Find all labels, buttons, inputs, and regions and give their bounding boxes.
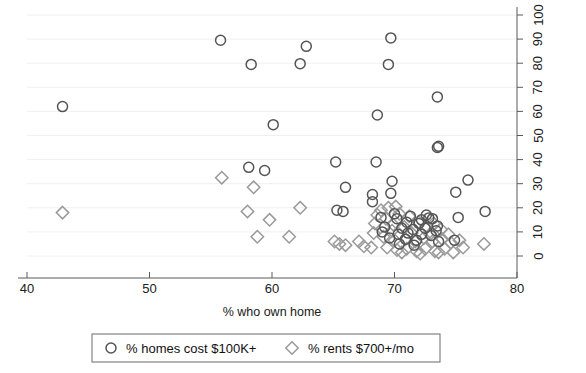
y-tick-label: 50 (531, 128, 546, 142)
data-point-circle (387, 176, 397, 186)
x-tick-label: 40 (20, 281, 34, 296)
data-point-circle (432, 92, 442, 102)
y-tick-label: 90 (531, 32, 546, 46)
x-axis-title: % who own home (223, 305, 322, 319)
y-tick-label: 60 (531, 104, 546, 118)
y-tick-label: 20 (531, 201, 546, 215)
data-point-circle (383, 59, 393, 69)
data-point-circle (268, 120, 278, 130)
data-point-circle (451, 187, 461, 197)
x-axis-ticks: 4050607080 (20, 272, 524, 296)
data-point-circle (386, 33, 396, 43)
data-point-diamond (247, 181, 259, 193)
legend-label-homes-cost: % homes cost $100K+ (126, 341, 256, 356)
data-point-circle (367, 197, 377, 207)
data-point-circle (331, 157, 341, 167)
data-point-circle (246, 59, 256, 69)
data-point-circle (260, 165, 270, 175)
x-tick-label: 70 (387, 281, 401, 296)
data-point-circle (453, 212, 463, 222)
data-point-circle (58, 102, 68, 112)
y-tick-label: 0 (531, 252, 546, 259)
plot-canvas: 4050607080 0102030405060708090100 % who … (0, 0, 586, 373)
y-tick-label: 80 (531, 56, 546, 70)
data-point-circle (244, 162, 254, 172)
data-point-diamond (339, 239, 351, 251)
data-point-diamond (263, 214, 275, 226)
y-tick-label: 30 (531, 176, 546, 190)
y-tick-label: 100 (531, 4, 546, 26)
x-tick-label: 80 (510, 281, 524, 296)
data-point-diamond (241, 205, 253, 217)
legend-label-rents: % rents $700+/mo (308, 341, 414, 356)
data-point-diamond (216, 171, 228, 183)
scatter-chart: 4050607080 0102030405060708090100 % who … (0, 0, 586, 373)
data-point-circle (216, 35, 226, 45)
y-axis-ticks: 0102030405060708090100 (517, 4, 546, 259)
data-point-circle (301, 41, 311, 51)
gridlines (27, 15, 517, 256)
data-point-diamond (478, 238, 490, 250)
y-tick-label: 40 (531, 152, 546, 166)
data-point-circle (386, 188, 396, 198)
legend: % homes cost $100K+% rents $700+/mo (92, 334, 440, 362)
y-tick-label: 10 (531, 225, 546, 239)
x-tick-label: 50 (142, 281, 156, 296)
data-point-circle (371, 157, 381, 167)
y-tick-label: 70 (531, 80, 546, 94)
x-tick-label: 60 (265, 281, 279, 296)
